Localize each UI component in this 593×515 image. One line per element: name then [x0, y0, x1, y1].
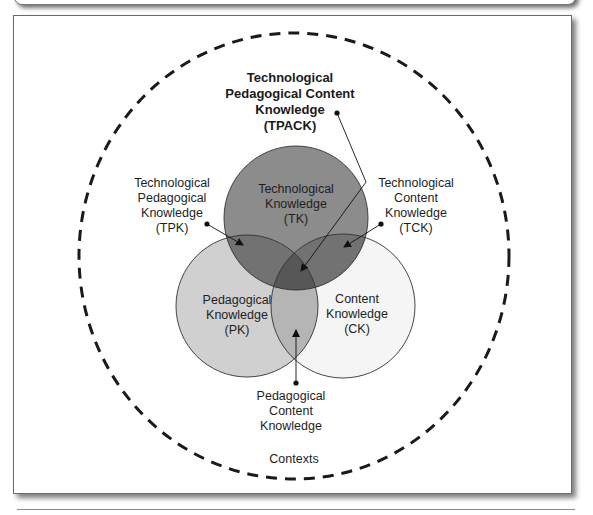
svg-text:Technological: Technological	[247, 70, 333, 85]
tpack-venn-diagram: Technological Pedagogical Content Knowle…	[0, 0, 593, 515]
svg-text:Knowledge: Knowledge	[141, 206, 203, 220]
pck-label: Pedagogical Content Knowledge	[257, 389, 326, 433]
tpk-label: Technological Pedagogical Knowledge (TPK…	[134, 176, 210, 235]
svg-text:Knowledge: Knowledge	[255, 102, 324, 117]
svg-text:Content: Content	[269, 404, 313, 418]
tpack-label: Technological Pedagogical Content Knowle…	[225, 70, 355, 133]
svg-text:Technological: Technological	[378, 176, 454, 190]
svg-text:(TPACK): (TPACK)	[264, 118, 316, 133]
tck-label: Technological Content Knowledge (TCK)	[378, 176, 454, 235]
svg-text:Content: Content	[394, 191, 438, 205]
svg-text:Pedagogical Content: Pedagogical Content	[225, 86, 355, 101]
svg-text:(PK): (PK)	[225, 323, 250, 337]
svg-text:Knowledge: Knowledge	[265, 197, 327, 211]
svg-text:Knowledge: Knowledge	[326, 307, 388, 321]
svg-text:Technological: Technological	[134, 176, 210, 190]
contexts-label: Contexts	[269, 452, 318, 466]
svg-text:(TPK): (TPK)	[156, 221, 189, 235]
svg-text:Content: Content	[335, 292, 379, 306]
svg-text:(TK): (TK)	[284, 212, 308, 226]
svg-text:Pedagogical: Pedagogical	[203, 293, 272, 307]
svg-text:(CK): (CK)	[344, 322, 370, 336]
svg-text:Knowledge: Knowledge	[206, 308, 268, 322]
svg-text:(TCK): (TCK)	[399, 221, 432, 235]
svg-text:Pedagogical: Pedagogical	[257, 389, 326, 403]
svg-text:Pedagogical: Pedagogical	[138, 191, 207, 205]
svg-text:Knowledge: Knowledge	[385, 206, 447, 220]
svg-text:Technological: Technological	[258, 182, 334, 196]
svg-text:Knowledge: Knowledge	[260, 419, 322, 433]
